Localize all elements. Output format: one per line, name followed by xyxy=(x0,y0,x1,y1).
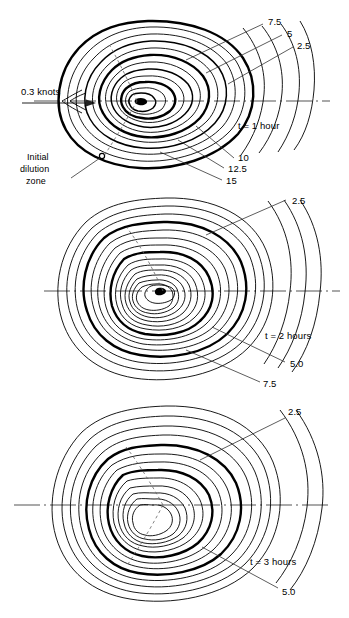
initial-dilution-zone-label-line1: Initial xyxy=(27,152,49,163)
p3-radial xyxy=(126,447,163,505)
p2-contour-o2 xyxy=(67,206,265,371)
time-label-panel2: t = 2 hours xyxy=(265,330,311,341)
contour-label-5-panel1: 5 xyxy=(287,28,292,39)
p3-c7 xyxy=(132,505,172,536)
p3-leader-2p5 xyxy=(200,418,285,460)
contour-label-2p5-panel2: 2.5 xyxy=(292,195,306,206)
leader-initial-zone xyxy=(71,158,100,178)
contour-label-2p5-panel3: 2.5 xyxy=(288,406,302,417)
contour-label-5-panel2: 5.0 xyxy=(290,358,304,369)
p2-core xyxy=(155,288,166,296)
contour-label-2p5-panel1: 2.5 xyxy=(297,40,311,51)
contour-label-15-panel1: 15 xyxy=(226,175,237,186)
p2-contour-outer xyxy=(58,198,273,380)
contour-label-5-panel3: 5.0 xyxy=(282,586,296,597)
time-label-panel1: t = 1 hour xyxy=(238,120,279,131)
contour-label-12p5-panel1: 12.5 xyxy=(228,163,247,174)
panel-2-hours-group xyxy=(44,198,340,382)
p2-c9 xyxy=(136,284,173,311)
time-label-panel3: t = 3 hours xyxy=(250,556,296,567)
initial-dilution-marker xyxy=(99,153,104,158)
contour-label-10-panel1: 10 xyxy=(238,152,249,163)
contour-label-7p5-panel1: 7.5 xyxy=(268,16,282,27)
initial-dilution-zone-label-line3: zone xyxy=(26,176,46,187)
p2-outer-1 xyxy=(292,200,321,372)
panel-3-hours-group xyxy=(14,406,332,601)
current-speed-label: 0.3 knots xyxy=(21,86,60,97)
contour-level-2p5 xyxy=(59,21,254,168)
p2-c7 xyxy=(129,275,185,318)
contour-figure: 7.5 5 2.5 10 12.5 15 t = 1 hour 0.3 knot… xyxy=(0,0,349,618)
initial-dilution-zone-label-line2: dilution xyxy=(20,164,49,175)
contour-label-7p5-panel2: 7.5 xyxy=(263,378,277,389)
p2-leader-2p5 xyxy=(206,200,286,235)
p3-c3 xyxy=(113,478,203,552)
panel-1-hour-group xyxy=(22,21,330,180)
p3-c4 xyxy=(118,486,194,547)
